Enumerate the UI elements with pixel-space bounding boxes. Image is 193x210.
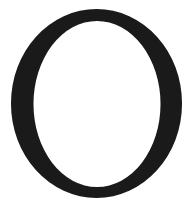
letter-o-shape xyxy=(0,0,193,210)
letter-o-glyph: O xyxy=(0,0,193,210)
